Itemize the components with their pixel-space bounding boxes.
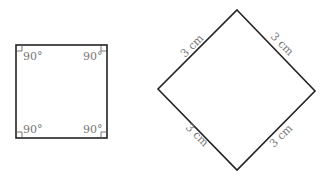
angle-label-bottom-left: 90° — [23, 123, 43, 136]
angle-label-bottom-right: 90° — [83, 123, 103, 136]
right-angle-marker-bl — [16, 132, 22, 138]
square-shape: 90° 90° 90° 90° — [16, 45, 107, 138]
figure-canvas: 90° 90° 90° 90° 3 cm 3 cm 3 cm 3 cm — [0, 0, 331, 177]
rhombus-outline — [158, 10, 315, 170]
right-angle-marker-tl — [16, 45, 22, 51]
angle-label-top-left: 90° — [23, 50, 43, 63]
side-label-bottom-left: 3 cm — [183, 121, 212, 150]
side-label-bottom-right: 3 cm — [267, 121, 296, 150]
side-label-top-right: 3 cm — [268, 30, 297, 59]
angle-label-top-right: 90° — [83, 50, 103, 63]
rhombus-shape: 3 cm 3 cm 3 cm 3 cm — [158, 10, 315, 170]
